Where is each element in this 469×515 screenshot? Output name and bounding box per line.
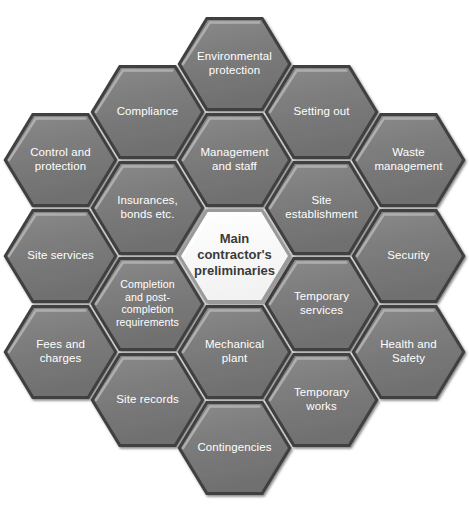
hex-label-site-records: Site records: [116, 393, 179, 405]
hex-label-setting-out: Setting out: [293, 105, 350, 117]
hex-label-control-and-protection: Control andprotection: [30, 146, 91, 171]
hex-label-compliance: Compliance: [117, 105, 179, 117]
hex-label-contingencies: Contingencies: [197, 441, 271, 453]
hexagon-canvas: EnvironmentalprotectionComplianceSetting…: [0, 0, 469, 515]
hex-label-temporary-services: Temporaryservices: [294, 290, 349, 315]
hex-label-completion-and-post-completion-requirements: Completionand post-completionrequirement…: [116, 278, 179, 328]
hex-label-insurances-bonds-etc: Insurances,bonds etc.: [117, 194, 178, 219]
hex-label-security: Security: [387, 249, 429, 261]
hexagon-diagram: EnvironmentalprotectionComplianceSetting…: [0, 0, 469, 515]
hex-label-site-services: Site services: [27, 249, 94, 261]
hex-label-fees-and-charges: Fees andcharges: [36, 338, 85, 363]
